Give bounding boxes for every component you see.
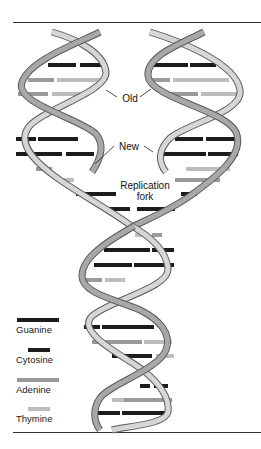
legend-item-thymine: Thymine [16,407,60,424]
base-pair-guanine [16,152,62,156]
legend-label-cytosine: Cytosine [16,354,60,365]
base-pair-guanine [104,248,150,252]
base-pair-guanine [94,263,132,267]
base-pair-cytosine [190,63,216,67]
cytosine-swatch [28,348,50,352]
base-pair-cytosine [102,325,154,329]
label-replication-fork: Replication fork [110,180,180,202]
base-pair-guanine [175,137,203,141]
base-pair-adenine [152,233,162,237]
label-old: Old [115,93,145,104]
label-new: New [112,141,146,152]
legend-item-cytosine: Cytosine [16,348,60,365]
base-pair-thymine [105,278,125,282]
thymine-swatch [28,407,50,411]
legend-item-guanine: Guanine [16,318,60,335]
legend-label-guanine: Guanine [16,324,60,335]
legend-item-adenine: Adenine [16,378,60,395]
guanine-swatch [17,318,59,322]
base-pair-thymine [112,398,126,402]
base-pair-adenine [28,78,54,82]
base-pair-guanine [160,152,206,156]
label-replication-fork-line1: Replication [110,180,180,191]
base-pair-guanine [140,384,150,388]
adenine-swatch [17,378,59,382]
legend-label-thymine: Thymine [16,413,60,424]
base-pair-cytosine [206,137,236,141]
helix-strands [21,32,240,430]
label-replication-fork-line2: fork [110,191,180,202]
base-pair-thymine [201,92,239,96]
base-pair-cytosine [38,137,78,141]
base-pair-thymine [173,78,229,82]
base-pair-thymine [57,78,103,82]
base-pair-cytosine [66,152,94,156]
legend-label-adenine: Adenine [16,384,60,395]
base-pair-guanine [48,63,76,67]
